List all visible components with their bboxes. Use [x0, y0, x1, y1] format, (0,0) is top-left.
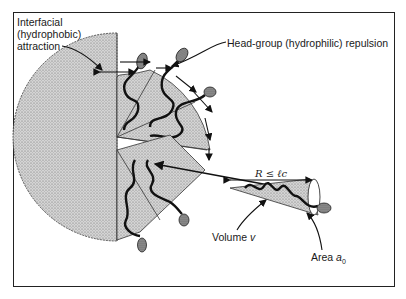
area-subscript: 0 [342, 258, 346, 265]
volume-text: Volume [212, 231, 247, 243]
interfacial-attraction-label: Interfacial (hydrophobic) attraction [17, 16, 97, 52]
area-text: Area [311, 251, 333, 263]
area-label: Area a0 [311, 251, 346, 268]
critical-length-label: R ≤ ℓc [255, 168, 287, 180]
micelle-core [13, 33, 117, 241]
lower-wedge [117, 135, 205, 252]
head-group-4 [179, 214, 189, 226]
headgroup-repulsion-label: Head-group (hydrophilic) repulsion [227, 37, 388, 49]
label-line: (hydrophobic) [17, 28, 97, 40]
volume-label: Volume v [212, 231, 255, 243]
head-group-3 [204, 87, 216, 97]
area-leader [307, 213, 322, 250]
label-line: attraction [17, 40, 97, 52]
head-group-2 [174, 46, 191, 64]
detached-cone [230, 179, 331, 215]
cone-head-group [317, 203, 331, 213]
label-line: Interfacial [17, 16, 97, 28]
head-group-5 [138, 238, 147, 252]
volume-leader [237, 200, 266, 230]
volume-symbol: v [250, 231, 255, 243]
